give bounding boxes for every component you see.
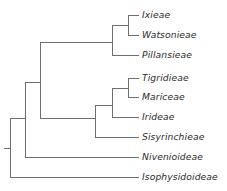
tip-branch-group — [11, 16, 139, 178]
tip-label-irideae: Irideae — [142, 112, 175, 121]
tip-label-mariceae: Mariceae — [142, 92, 185, 101]
tip-label-sisyrinchieae: Sisyrinchieae — [142, 132, 204, 141]
branch-group — [5, 16, 129, 178]
tip-label-watsonieae: Watsonieae — [142, 30, 197, 39]
tip-label-pillansieae: Pillansieae — [142, 50, 192, 59]
cladogram-figure: IxieaeWatsonieaePillansieaeTigridieaeMar… — [0, 0, 227, 191]
tip-label-isophysidoideae: Isophysidoideae — [142, 172, 218, 181]
tip-label-ixieae: Ixieae — [142, 10, 170, 19]
tip-label-tigridieae: Tigridieae — [142, 73, 189, 82]
tip-label-nivenioideae: Nivenioideae — [142, 152, 203, 161]
